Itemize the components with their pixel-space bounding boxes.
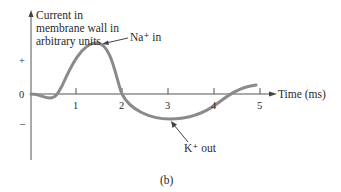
x-tick-5: 5 xyxy=(257,99,262,112)
y-tick-plus: + xyxy=(19,54,25,67)
figure-caption: (b) xyxy=(160,174,173,187)
na-annotation: Na⁺ in xyxy=(130,31,161,44)
x-tick-2: 2 xyxy=(119,99,124,112)
k-annotation: K⁺ out xyxy=(184,142,216,155)
y-tick-zero: 0 xyxy=(19,88,24,101)
x-axis-label: Time (ms) xyxy=(278,88,326,101)
k-pointer xyxy=(174,125,188,142)
y-axis-label: Current in membrane wall in arbitrary un… xyxy=(36,9,126,48)
x-axis-arrow-icon xyxy=(269,92,277,97)
y-tick-minus: – xyxy=(20,117,25,130)
x-tick-4: 4 xyxy=(211,99,216,112)
current-curve xyxy=(31,43,256,119)
x-tick-3: 3 xyxy=(165,99,170,112)
y-axis-arrow-icon xyxy=(29,10,34,17)
x-tick-1: 1 xyxy=(73,99,78,112)
